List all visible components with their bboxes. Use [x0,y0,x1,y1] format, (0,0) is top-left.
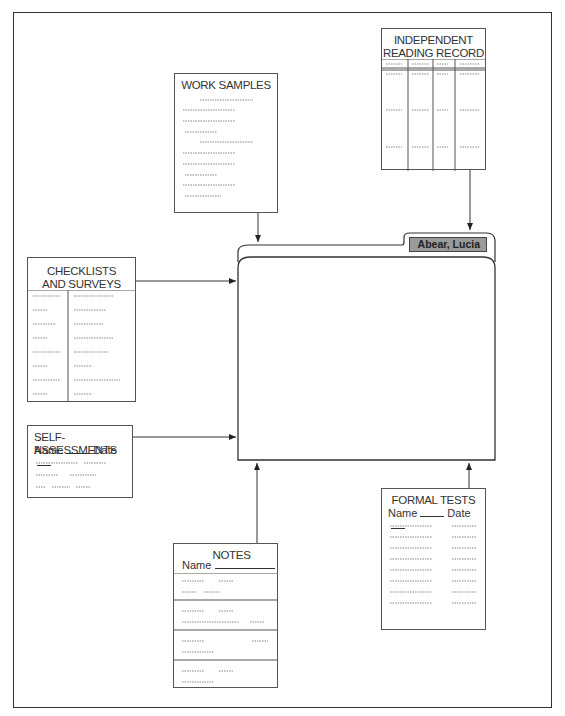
folder-front [238,257,495,460]
cs-title-1: CHECKLISTS [28,265,135,278]
sa-date-label: Date [93,444,116,456]
ft-date-label: Date [447,507,470,519]
checklists-and-surveys-doc: CHECKLISTS AND SURVEYS [27,257,136,402]
ws-title: WORK SAMPLES [175,79,277,92]
independent-reading-record-doc: INDEPENDENT READING RECORD [381,28,486,170]
self-assessments-doc: SELF-ASSESSMENTS NameDate [27,425,133,498]
irr-title-1: INDEPENDENT [382,34,485,47]
notes-doc: NOTES Name [173,543,278,688]
ws-text-lines [175,94,277,209]
sa-text-lines [28,458,132,498]
notes-name-line: Name [182,559,275,571]
folder-name-label: Abear, Lucia [409,237,487,252]
ft-title: FORMAL TESTS [382,494,485,507]
notes-sections [174,573,277,688]
irr-table [382,59,485,171]
sa-name-label: Name [34,444,63,456]
notes-name-label: Name [182,559,211,571]
ft-name-label: Name [388,507,417,519]
cs-table [28,290,135,402]
ft-text-lines [382,521,485,621]
work-samples-doc: WORK SAMPLES [174,73,278,213]
formal-tests-doc: FORMAL TESTS NameDate [381,488,486,630]
